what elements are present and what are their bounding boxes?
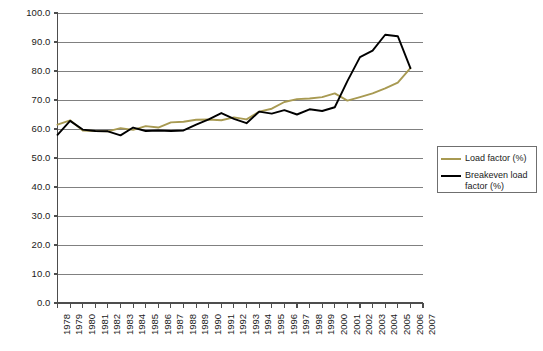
chart-legend: Load factor (%) Breakeven load factor (%… bbox=[437, 146, 537, 193]
y-axis-tick-label: 10.0 bbox=[7, 269, 51, 279]
legend-swatch-load-factor bbox=[441, 158, 461, 160]
line-chart: 100.090.080.070.060.050.040.030.020.010.… bbox=[0, 0, 543, 351]
x-axis-tick-label: 1992 bbox=[238, 314, 248, 335]
x-axis-tick-label: 1994 bbox=[263, 314, 273, 335]
legend-label-breakeven-load-factor: Breakeven load factor (%) bbox=[465, 170, 539, 191]
x-axis-tick-label: 2002 bbox=[364, 314, 374, 335]
x-axis-tick-label: 1978 bbox=[62, 314, 72, 335]
x-axis-tick-label: 2005 bbox=[402, 314, 412, 335]
series-line-breakeven-load-factor bbox=[58, 35, 411, 136]
y-axis-tick-label: 30.0 bbox=[7, 211, 51, 221]
x-axis-tick-label: 1979 bbox=[74, 314, 84, 335]
x-axis-tick-label: 2001 bbox=[352, 314, 362, 335]
x-axis-tick-label: 1996 bbox=[289, 314, 299, 335]
x-axis-tick-label: 1981 bbox=[100, 314, 110, 335]
x-axis-tick-label: 1986 bbox=[163, 314, 173, 335]
y-gridlines bbox=[58, 13, 424, 303]
y-axis-tick-label: 60.0 bbox=[7, 124, 51, 134]
legend-swatch-breakeven-load-factor bbox=[441, 175, 461, 177]
x-axis-tick-label: 1993 bbox=[251, 314, 261, 335]
x-axis-tick-label: 1999 bbox=[326, 314, 336, 335]
y-axis-tick-label: 100.0 bbox=[7, 8, 51, 18]
y-axis-tick-label: 90.0 bbox=[7, 37, 51, 47]
y-axis-tick-label: 80.0 bbox=[7, 66, 51, 76]
y-axis-tick-label: 40.0 bbox=[7, 182, 51, 192]
x-axis-tick-label: 1983 bbox=[125, 314, 135, 335]
x-axis-tick-label: 1984 bbox=[137, 314, 147, 335]
x-axis-tick-label: 1990 bbox=[213, 314, 223, 335]
y-axis-tick-label: 50.0 bbox=[7, 153, 51, 163]
x-axis-tick-label: 1995 bbox=[276, 314, 286, 335]
x-axis-tick-label: 2006 bbox=[415, 314, 425, 335]
x-axis-tick-label: 2004 bbox=[389, 314, 399, 335]
x-axis-tick-label: 1980 bbox=[87, 314, 97, 335]
x-axis-tick-label: 2000 bbox=[339, 314, 349, 335]
y-axis-tick-label: 70.0 bbox=[7, 95, 51, 105]
x-axis-tick-label: 1989 bbox=[200, 314, 210, 335]
x-axis-tick-label: 1998 bbox=[314, 314, 324, 335]
x-axis-tick-label: 2007 bbox=[427, 314, 437, 335]
x-axis-tick-label: 1985 bbox=[150, 314, 160, 335]
y-axis-tick-label: 20.0 bbox=[7, 240, 51, 250]
x-axis-tick-label: 1991 bbox=[226, 314, 236, 335]
x-axis-tick-label: 1988 bbox=[188, 314, 198, 335]
x-axis-tick-label: 1997 bbox=[301, 314, 311, 335]
legend-label-load-factor: Load factor (%) bbox=[465, 153, 539, 164]
x-axis-tick-label: 2003 bbox=[377, 314, 387, 335]
x-axis-tick-label: 1982 bbox=[112, 314, 122, 335]
y-axis-tick-label: 0.0 bbox=[7, 298, 51, 308]
x-axis-ticks bbox=[58, 303, 424, 308]
x-axis-tick-label: 1987 bbox=[175, 314, 185, 335]
